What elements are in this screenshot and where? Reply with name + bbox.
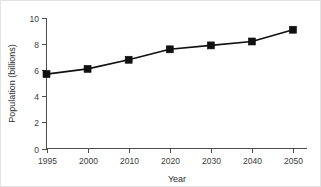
x-tick-label: 2030: [202, 156, 221, 166]
x-tick-label: 2010: [120, 156, 139, 166]
data-point-marker: [248, 38, 255, 45]
y-axis-title: Population (billions): [7, 44, 17, 123]
x-tick-label: 2000: [79, 156, 98, 166]
x-axis-title: Year: [168, 174, 186, 184]
y-tick-label: 0: [34, 145, 39, 155]
y-tick-label: 2: [34, 118, 39, 128]
y-tick-label: 8: [34, 40, 39, 50]
data-point-marker: [84, 65, 91, 72]
x-tick-label: 2020: [161, 156, 180, 166]
population-line-chart: 0246810 1995200020102020203020402050 Pop…: [0, 0, 321, 187]
y-tick-label: 10: [30, 14, 40, 24]
y-tick-label: 4: [34, 92, 39, 102]
x-tick-label: 2040: [243, 156, 262, 166]
chart-plot-area: 0246810 1995200020102020203020402050 Pop…: [1, 1, 321, 187]
data-point-marker: [166, 46, 173, 53]
y-tick-label: 6: [34, 66, 39, 76]
y-axis-tick-labels: 0246810: [30, 14, 40, 155]
y-axis-ticks: [42, 19, 47, 150]
data-point-marker: [290, 26, 297, 33]
x-tick-label: 2050: [284, 156, 303, 166]
x-axis-tick-labels: 1995200020102020203020402050: [38, 156, 303, 166]
x-tick-label: 1995: [38, 156, 57, 166]
data-point-marker: [125, 56, 132, 63]
x-axis-ticks: [48, 149, 294, 154]
data-point-marker: [43, 71, 50, 78]
data-point-marker: [207, 42, 214, 49]
